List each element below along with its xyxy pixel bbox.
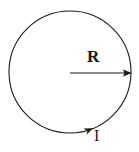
radius-label: R <box>87 48 99 65</box>
current-loop-circle <box>9 11 131 133</box>
current-loop-diagram <box>0 0 139 152</box>
current-label: I <box>94 128 99 144</box>
figure-container: R I <box>0 0 139 152</box>
